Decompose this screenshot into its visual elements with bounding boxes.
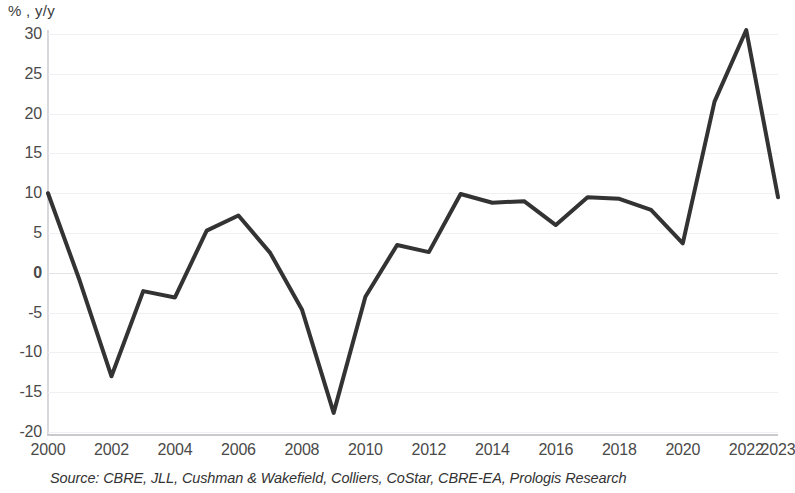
series-line: [48, 30, 778, 413]
source-note: Source: CBRE, JLL, Cushman & Wakefield, …: [50, 470, 626, 486]
